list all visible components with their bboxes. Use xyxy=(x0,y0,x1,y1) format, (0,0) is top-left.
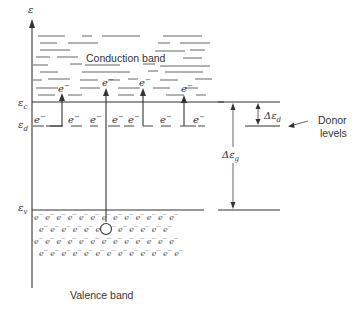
band-gap-label: Δεg xyxy=(221,149,240,163)
svg-text:e−: e− xyxy=(193,113,205,125)
svg-text:e−: e− xyxy=(90,113,102,125)
svg-text:e−: e− xyxy=(102,76,114,88)
pointer-arrow-icon xyxy=(288,123,295,129)
svg-text:e−: e− xyxy=(112,113,124,125)
svg-text:e‾ e‾ e‾ e‾ e‾ e‾ e‾ e‾ e‾ e‾: e‾ e‾ e‾ e‾ e‾ e‾ e‾ e‾ e‾ e‾ e‾ e‾ e‾ xyxy=(39,249,183,258)
ed-label: εd xyxy=(18,119,28,133)
axis-label: ε xyxy=(28,4,33,15)
donor-levels-label-1: Donor xyxy=(318,114,347,126)
svg-text:e−: e− xyxy=(68,113,80,125)
ec-label: εc xyxy=(18,97,27,111)
svg-text:e−: e− xyxy=(160,113,172,125)
svg-text:e−: e− xyxy=(34,113,46,125)
band-diagram: ε Conduction band e− e− e− e− εc εd e− e… xyxy=(0,0,364,310)
svg-text:e−: e− xyxy=(58,82,70,94)
excitation-arrows xyxy=(46,88,187,222)
axis-arrow-icon xyxy=(29,19,35,28)
svg-text:e‾ e‾ e‾ e‾ e‾ e‾ e‾ e‾ e‾ e‾: e‾ e‾ e‾ e‾ e‾ e‾ e‾ e‾ e‾ e‾ e‾ e‾ e‾ xyxy=(34,237,178,246)
svg-text:e−: e− xyxy=(128,113,140,125)
svg-text:e‾ e‾ e‾ e‾ e‾ e‾ e‾ e‾ e‾ e‾: e‾ e‾ e‾ e‾ e‾ e‾ e‾ e‾ e‾ e‾ e‾ e‾ e‾ xyxy=(34,213,178,222)
donor-electrons: e− e− e− e− e− e− e− xyxy=(34,113,205,125)
conduction-band-label: Conduction band xyxy=(86,52,166,64)
donor-gap-label: Δεd xyxy=(263,110,282,124)
excited-electrons: e− e− e− e− xyxy=(58,76,193,94)
gap-annotations: Δεd Δεg Donor levels xyxy=(218,102,347,210)
ev-label: εv xyxy=(18,202,27,216)
donor-levels-label-2: levels xyxy=(320,127,347,139)
valence-band-electrons: e‾ e‾ e‾ e‾ e‾ e‾ e‾ e‾ e‾ e‾ e‾ e‾ e‾ e… xyxy=(34,213,183,258)
hole-icon xyxy=(101,224,112,235)
svg-text:e−: e− xyxy=(181,82,193,94)
valence-band-label: Valence band xyxy=(70,289,134,301)
svg-text:e−: e− xyxy=(139,76,151,88)
